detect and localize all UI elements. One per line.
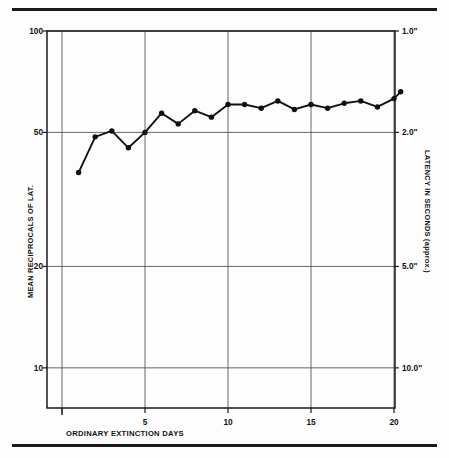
x-tick-20: 20 xyxy=(380,417,408,427)
chart-canvas xyxy=(0,0,449,458)
y-axis-label-right: LATENCY IN SECONDS (approx.) xyxy=(423,150,432,273)
x-tick-15: 15 xyxy=(297,417,325,427)
grid-lines xyxy=(47,31,395,414)
x-tick-5: 5 xyxy=(131,417,159,427)
y-tick-right-1: 2.0" xyxy=(402,127,442,137)
y-tick-right-3: 10.0" xyxy=(402,363,442,373)
y-axis-label-left: MEAN RECIPROCALS OF LAT. xyxy=(26,185,35,298)
figure-page: MEAN RECIPROCALS OF LAT. LATENCY IN SECO… xyxy=(0,0,449,458)
y-tick-left-10: 10 xyxy=(13,363,43,373)
y-tick-left-20: 20 xyxy=(13,261,43,271)
y-tick-right-2: 5.0" xyxy=(402,261,442,271)
y-tick-left-100: 100 xyxy=(13,26,43,36)
x-axis-caption: ORDINARY EXTINCTION DAYS xyxy=(66,429,184,438)
y-tick-right-0: 1.0" xyxy=(402,26,442,36)
tick-marks xyxy=(43,31,399,415)
x-tick-10: 10 xyxy=(214,417,242,427)
plot-frame xyxy=(47,31,395,408)
y-tick-left-50: 50 xyxy=(13,127,43,137)
